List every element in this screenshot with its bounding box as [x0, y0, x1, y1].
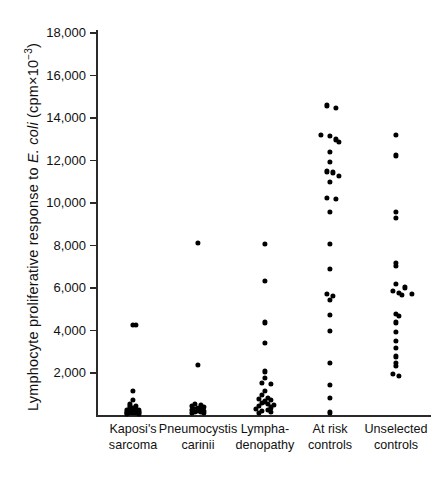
data-point — [259, 380, 264, 385]
data-point — [393, 354, 398, 359]
data-point — [327, 312, 332, 317]
data-point — [269, 381, 274, 386]
data-point — [327, 159, 332, 164]
x-axis-category-labels: Kaposi'ssarcomaPneumocystiscariniiLympha… — [96, 422, 435, 477]
y-tick-label: 8,000 — [20, 237, 86, 252]
data-point — [256, 410, 261, 415]
data-point — [393, 345, 398, 350]
y-tick-label: 16,000 — [20, 67, 86, 82]
data-point — [327, 241, 332, 246]
data-point — [327, 209, 332, 214]
data-point — [262, 375, 267, 380]
y-tick-mark — [90, 75, 97, 77]
data-point — [130, 388, 135, 393]
data-point — [393, 320, 398, 325]
data-point — [327, 150, 332, 155]
data-point — [327, 267, 332, 272]
data-point — [397, 313, 402, 318]
data-point — [262, 241, 267, 246]
data-point — [327, 134, 332, 139]
y-tick-mark — [90, 160, 97, 162]
data-point — [397, 373, 402, 378]
x-category-label-line2: controls — [351, 438, 435, 454]
data-point — [337, 139, 342, 144]
data-point — [327, 395, 332, 400]
y-tick-label: 6,000 — [20, 280, 86, 295]
data-point — [393, 363, 398, 368]
data-point — [262, 278, 267, 283]
data-point — [324, 103, 329, 108]
data-point — [331, 170, 336, 175]
y-tick-label: 12,000 — [20, 152, 86, 167]
data-point — [327, 179, 332, 184]
data-point — [189, 410, 194, 415]
data-point — [262, 340, 267, 345]
scatter-plot-figure: Lymphocyte proliferative response to E. … — [0, 0, 435, 477]
data-point — [195, 362, 200, 367]
data-point — [393, 216, 398, 221]
x-category-label: Unselectedcontrols — [351, 422, 435, 453]
data-point — [195, 240, 200, 245]
data-point — [327, 410, 332, 415]
data-point — [327, 328, 332, 333]
y-tick-mark — [90, 287, 97, 289]
data-point — [334, 105, 339, 110]
data-point — [269, 409, 274, 414]
y-tick-mark — [90, 202, 97, 204]
data-point — [324, 195, 329, 200]
y-tick-label: 10,000 — [20, 195, 86, 210]
data-point — [262, 320, 267, 325]
data-point — [262, 369, 267, 374]
y-tick-mark — [90, 32, 97, 34]
data-point — [134, 322, 139, 327]
data-point — [202, 410, 207, 415]
data-point — [324, 291, 329, 296]
data-point — [393, 153, 398, 158]
data-point — [400, 292, 405, 297]
data-point — [327, 298, 332, 303]
data-point — [393, 263, 398, 268]
plot-area — [96, 20, 435, 416]
y-tick-label: 14,000 — [20, 110, 86, 125]
y-tick-mark — [90, 245, 97, 247]
data-point — [324, 169, 329, 174]
y-tick-mark — [90, 330, 97, 332]
data-point — [393, 209, 398, 214]
data-point — [137, 411, 142, 416]
data-point — [334, 196, 339, 201]
y-axis-tick-labels: 18,00016,00014,00012,00010,0008,0006,000… — [12, 0, 86, 477]
y-tick-mark — [90, 372, 97, 374]
y-tick-label: 4,000 — [20, 322, 86, 337]
data-point — [393, 133, 398, 138]
data-point — [393, 338, 398, 343]
x-category-label-line1: Unselected — [351, 422, 435, 438]
data-point — [393, 329, 398, 334]
y-tick-label: 2,000 — [20, 365, 86, 380]
data-point — [409, 291, 414, 296]
data-point — [393, 282, 398, 287]
y-tick-label: 18,000 — [20, 25, 86, 40]
data-point — [327, 383, 332, 388]
data-point — [390, 288, 395, 293]
y-tick-mark — [90, 117, 97, 119]
data-point — [327, 360, 332, 365]
data-point — [318, 133, 323, 138]
data-point — [390, 371, 395, 376]
data-point — [403, 285, 408, 290]
data-point — [337, 173, 342, 178]
